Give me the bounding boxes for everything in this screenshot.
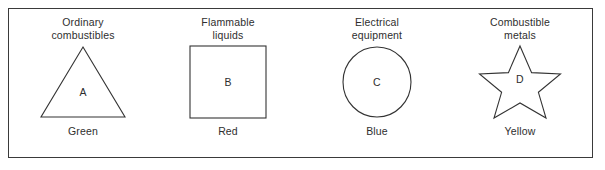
circle-icon: C: [332, 44, 422, 120]
star-icon: D: [475, 44, 565, 120]
shape-area-c: C: [302, 44, 452, 122]
shape-area-a: A: [9, 44, 157, 122]
class-panel-c: Electrical equipment C Blue: [302, 9, 452, 159]
shape-letter-b: B: [224, 76, 231, 88]
panel-title-d: Combustible metals: [490, 16, 550, 42]
fire-extinguisher-class-diagram: Ordinary combustibles A Green Flammable …: [0, 0, 605, 170]
shape-letter-c: C: [373, 76, 381, 88]
shape-area-b: B: [154, 44, 302, 122]
class-panel-d: Combustible metals D Yellow: [446, 9, 594, 159]
panel-color-c: Blue: [366, 125, 388, 138]
panel-title-a: Ordinary combustibles: [51, 16, 114, 42]
panel-title-c: Electrical equipment: [352, 16, 402, 42]
shape-letter-a: A: [79, 86, 86, 98]
triangle-icon: A: [38, 44, 128, 120]
panel-title-b: Flammable liquids: [201, 16, 254, 42]
shape-area-d: D: [446, 44, 594, 122]
panel-color-d: Yellow: [505, 125, 536, 138]
class-panel-b: Flammable liquids B Red: [154, 9, 302, 159]
diagram-frame: Ordinary combustibles A Green Flammable …: [8, 8, 593, 158]
square-icon: B: [183, 44, 273, 120]
panel-color-b: Red: [218, 125, 238, 138]
class-panel-a: Ordinary combustibles A Green: [9, 9, 157, 159]
panel-color-a: Green: [68, 125, 98, 138]
shape-letter-d: D: [516, 73, 524, 85]
